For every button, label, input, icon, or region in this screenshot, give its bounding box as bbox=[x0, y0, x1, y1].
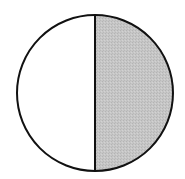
unshaded-left-half bbox=[17, 15, 95, 171]
fraction-circle-svg bbox=[0, 0, 185, 179]
shaded-right-half bbox=[95, 15, 173, 171]
fraction-circle-figure bbox=[0, 0, 185, 179]
